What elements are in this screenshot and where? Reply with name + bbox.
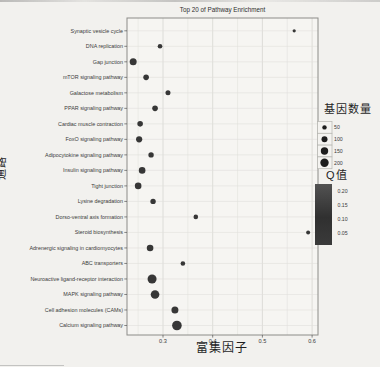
x-tick-label: 0.5 — [259, 338, 267, 344]
size-legend-label: 150 — [334, 148, 343, 154]
category-label: Adrenergic signaling in cardiomyocytes — [30, 245, 124, 251]
category-label: Cell adhesion molecules (CAMs) — [45, 307, 123, 313]
q-legend-label: 0.10 — [338, 216, 348, 222]
category-label: DNA replication — [86, 43, 123, 49]
category-label: Steroid biosynthesis — [75, 229, 124, 235]
data-point-bubble — [139, 167, 146, 174]
y-axis-title: 通路 — [0, 156, 8, 180]
data-point-bubble — [194, 215, 199, 220]
q-legend-label: 0.15 — [338, 202, 348, 208]
data-point-bubble — [130, 58, 137, 65]
x-axis-title: 富集因子 — [196, 338, 248, 355]
data-point-bubble — [150, 199, 155, 204]
data-point-bubble — [172, 321, 182, 331]
category-label: Cardiac muscle contraction — [58, 121, 123, 127]
data-point-bubble — [137, 121, 143, 127]
size-legend-label: 100 — [334, 136, 343, 142]
data-point-bubble — [293, 29, 296, 32]
size-legend-dot — [322, 136, 328, 142]
data-point-bubble — [151, 290, 160, 299]
data-point-bubble — [181, 261, 186, 266]
category-label: Gap junction — [93, 59, 123, 65]
data-point-bubble — [306, 230, 310, 234]
plot-panel — [127, 18, 318, 335]
data-point-bubble — [158, 44, 163, 49]
category-label: Galactose metabolism — [70, 90, 124, 96]
size-legend-dot — [322, 125, 326, 129]
category-label: Dorso-ventral axis formation — [56, 214, 123, 220]
category-label: ABC transporters — [82, 260, 124, 266]
data-point-bubble — [165, 90, 170, 95]
size-legend-label: 200 — [334, 160, 343, 166]
q-value-gradient-bar — [315, 184, 332, 245]
category-label: PPAR signaling pathway — [64, 105, 123, 111]
q-legend-label: 0.05 — [338, 230, 348, 236]
category-label: FoxO signaling pathway — [65, 136, 123, 142]
scan-artifact-top — [0, 0, 380, 2]
category-label: Insulin signaling pathway — [63, 167, 123, 173]
category-label: Lysine degradation — [78, 198, 123, 204]
category-label: Tight junction — [91, 183, 123, 189]
size-legend-label: 50 — [334, 124, 340, 130]
data-point-bubble — [148, 274, 157, 283]
category-label: MAPK signaling pathway — [63, 291, 123, 297]
data-point-bubble — [135, 183, 142, 190]
category-label: Adipocytokine signaling pathway — [45, 152, 123, 158]
pathway-enrichment-figure: Top 20 of Pathway EnrichmentSynaptic ves… — [0, 0, 380, 367]
data-point-bubble — [147, 245, 154, 252]
data-point-bubble — [171, 306, 178, 313]
chart-title: Top 20 of Pathway Enrichment — [180, 6, 266, 14]
data-point-bubble — [152, 106, 158, 112]
data-point-bubble — [143, 75, 149, 81]
q-legend-label: 0.20 — [338, 188, 348, 194]
size-legend-dot — [321, 147, 328, 154]
category-label: mTOR signaling pathway — [63, 74, 123, 80]
x-tick-label: 0.6 — [308, 338, 316, 344]
category-label: Synaptic vesicle cycle — [71, 28, 123, 34]
x-tick-label: 0.3 — [159, 338, 167, 344]
data-point-bubble — [136, 136, 142, 142]
gene-count-legend-title: 基因数量 — [324, 100, 372, 116]
q-value-legend-title: Q值 — [326, 166, 348, 182]
data-point-bubble — [148, 152, 153, 157]
category-label: Neuroactive ligand-receptor interaction — [30, 276, 123, 282]
scan-artifact-bottom — [0, 365, 64, 366]
category-label: Calcium signaling pathway — [59, 322, 123, 328]
